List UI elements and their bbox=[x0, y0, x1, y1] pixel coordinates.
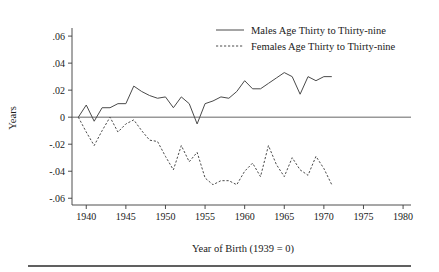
series-line-females bbox=[78, 117, 331, 185]
x-tick-label: 1955 bbox=[195, 211, 215, 222]
figure-container: .06.04.020-.02-.04-.06 19401945195019551… bbox=[0, 0, 439, 272]
x-tick-label: 1960 bbox=[235, 211, 255, 222]
x-tick-label: 1950 bbox=[155, 211, 175, 222]
x-tick-label: 1975 bbox=[353, 211, 373, 222]
y-tick-label: -.02 bbox=[49, 139, 65, 150]
series-line-males bbox=[78, 73, 331, 124]
y-tick-label: .04 bbox=[53, 58, 66, 69]
legend-label-females: Females Age Thirty to Thirty-nine bbox=[251, 41, 396, 52]
x-tick-label: 1965 bbox=[274, 211, 294, 222]
x-axis-title: Year of Birth (1939 = 0) bbox=[192, 243, 294, 255]
y-axis: .06.04.020-.02-.04-.06 bbox=[49, 28, 72, 205]
y-axis-title: Years bbox=[7, 106, 18, 129]
y-tick-label: .02 bbox=[53, 85, 66, 96]
y-tick-label: -.04 bbox=[49, 166, 65, 177]
legend-label-males: Males Age Thirty to Thirty-nine bbox=[251, 25, 386, 36]
x-axis: 194019451950195519601965197019751980 bbox=[72, 205, 413, 222]
y-tick-label: -.06 bbox=[49, 193, 65, 204]
x-tick-label: 1945 bbox=[116, 211, 136, 222]
line-chart: .06.04.020-.02-.04-.06 19401945195019551… bbox=[0, 0, 439, 272]
x-tick-label: 1980 bbox=[393, 211, 413, 222]
data-series-group bbox=[78, 73, 331, 185]
x-tick-label: 1970 bbox=[314, 211, 334, 222]
y-tick-label: 0 bbox=[60, 112, 65, 123]
y-tick-label: .06 bbox=[53, 31, 66, 42]
x-tick-label: 1940 bbox=[76, 211, 96, 222]
chart-legend: Males Age Thirty to Thirty-nineFemales A… bbox=[216, 25, 396, 52]
